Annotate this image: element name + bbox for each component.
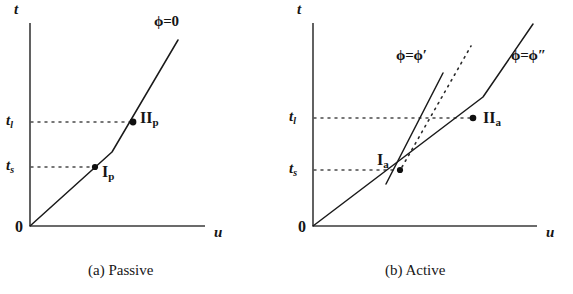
active-point-I-a-sub: a [383, 158, 389, 170]
passive-tick-tl-sub: l [10, 119, 13, 130]
active-y-axis-label: t [297, 2, 301, 17]
passive-origin-label: 0 [15, 219, 23, 235]
passive-x-axis-label: u [214, 225, 222, 240]
passive-plot-svg [0, 0, 573, 294]
active-point-II-a-sub: a [495, 116, 501, 128]
passive-caption: (a) Passive [88, 262, 153, 279]
passive-point-II-p-sub: p [152, 116, 158, 128]
active-origin-label: 0 [298, 219, 306, 235]
passive-point-II-p-marker [130, 119, 137, 126]
passive-phi-zero-curve [30, 40, 178, 226]
passive-point-II-p-base: II [140, 109, 152, 126]
passive-tick-label-tl: tl [6, 113, 13, 130]
active-curve-label-phi-prime: ϕ=ϕ′ [396, 48, 427, 63]
active-tick-label-ts: ts [289, 161, 297, 178]
passive-point-I-p-marker [92, 164, 98, 170]
active-tick-label-tl: tl [289, 109, 296, 126]
passive-tick-ts-sub: s [10, 164, 14, 175]
active-phi-prime-curve [386, 73, 443, 184]
active-point-I-a-marker [397, 167, 403, 173]
active-x-axis-label: u [546, 225, 554, 240]
active-point-label-II-a: IIa [483, 110, 501, 128]
active-point-II-a-marker [470, 115, 477, 122]
active-phi-prime-dotted-extension [402, 46, 471, 167]
passive-axes-group [30, 23, 205, 226]
active-curve-label-phi-double-prime: ϕ=ϕ″ [511, 48, 546, 63]
active-point-II-a-base: II [483, 109, 495, 126]
passive-point-I-p-sub: p [108, 170, 114, 182]
active-point-label-I-a: Ia [377, 152, 389, 170]
active-gridlines-group [314, 118, 472, 170]
active-tick-tl-sub: l [293, 115, 296, 126]
passive-tick-label-ts: ts [6, 158, 14, 175]
active-caption: (b) Active [385, 262, 445, 279]
passive-point-label-I-p: Ip [102, 164, 114, 182]
passive-point-label-II-p: IIp [140, 110, 159, 128]
active-tick-ts-sub: s [293, 167, 297, 178]
figure-container: t u 0 tl ts ϕ=0 Ip IIp (a) Passive t u 0… [0, 0, 573, 294]
passive-curve-label-phi-zero: ϕ=0 [154, 14, 179, 29]
passive-y-axis-label: t [14, 2, 18, 17]
